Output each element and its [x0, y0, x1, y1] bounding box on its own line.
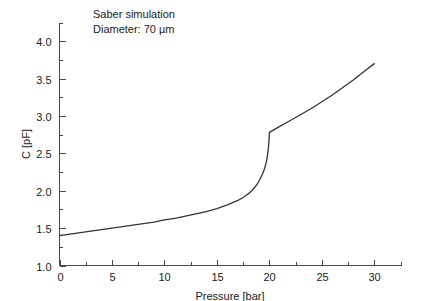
annotation-group: Saber simulationDiameter: 70 µm [93, 8, 175, 35]
x-tick-label: 5 [109, 271, 115, 283]
x-axis-ticks: 051015202530 [57, 260, 401, 283]
y-tick-label: 2.5 [36, 148, 51, 160]
y-tick-label: 3.5 [36, 74, 51, 86]
chart-canvas: Saber simulationDiameter: 70 µm 1.01.52.… [0, 0, 432, 301]
x-tick-label: 15 [211, 271, 223, 283]
annotation-line: Saber simulation [93, 8, 175, 20]
data-series-line [60, 64, 375, 236]
chart-figure: Saber simulationDiameter: 70 µm 1.01.52.… [0, 0, 432, 301]
y-tick-label: 3.0 [36, 111, 51, 123]
x-tick-label: 30 [368, 271, 380, 283]
x-tick-label: 10 [158, 271, 170, 283]
x-axis-title: Pressure [bar] [195, 290, 264, 301]
x-tick-label: 25 [316, 271, 328, 283]
y-tick-label: 4.0 [36, 36, 51, 48]
x-tick-label: 0 [57, 271, 63, 283]
annotation-line: Diameter: 70 µm [93, 23, 175, 35]
y-tick-label: 2.0 [36, 186, 51, 198]
y-tick-label: 1.0 [36, 261, 51, 273]
y-axis-title: C [pF] [20, 129, 32, 159]
y-tick-label: 1.5 [36, 223, 51, 235]
x-tick-label: 20 [263, 271, 275, 283]
